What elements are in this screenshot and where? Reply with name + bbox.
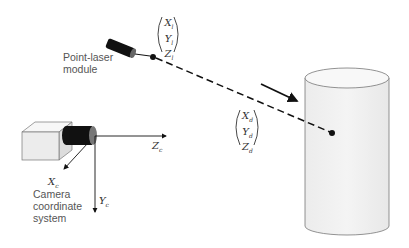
laser-z: Zl bbox=[163, 48, 175, 64]
target-cylinder bbox=[305, 68, 389, 235]
laser-point-vector: Xl Yl Zl bbox=[163, 17, 175, 64]
yc-label: Yc bbox=[99, 195, 109, 208]
laser-module-label: Point-laser module bbox=[63, 51, 113, 75]
direction-vector: Xd Yd Zd bbox=[240, 110, 255, 157]
laser-module-label-line1: Point-laser bbox=[63, 51, 113, 63]
direction-arrow bbox=[261, 84, 297, 101]
laser-y: Yl bbox=[163, 33, 175, 49]
dir-x: Xd bbox=[240, 110, 255, 126]
dir-z: Zd bbox=[240, 141, 255, 157]
camera-label-line1: Camera bbox=[33, 188, 82, 200]
dir-y: Yd bbox=[240, 126, 255, 142]
camera-label-line2: coordinate bbox=[33, 200, 82, 212]
laser-x: Xl bbox=[163, 17, 175, 33]
xc-label: Xc bbox=[48, 176, 59, 189]
target-point-dot bbox=[329, 130, 335, 136]
laser-point-dot bbox=[150, 54, 156, 60]
camera-icon bbox=[22, 122, 97, 160]
camera-system-label: Camera coordinate system bbox=[33, 188, 82, 224]
zc-label: Zc bbox=[152, 140, 162, 153]
camera-label-line3: system bbox=[33, 212, 82, 224]
laser-module-label-line2: module bbox=[63, 63, 113, 75]
